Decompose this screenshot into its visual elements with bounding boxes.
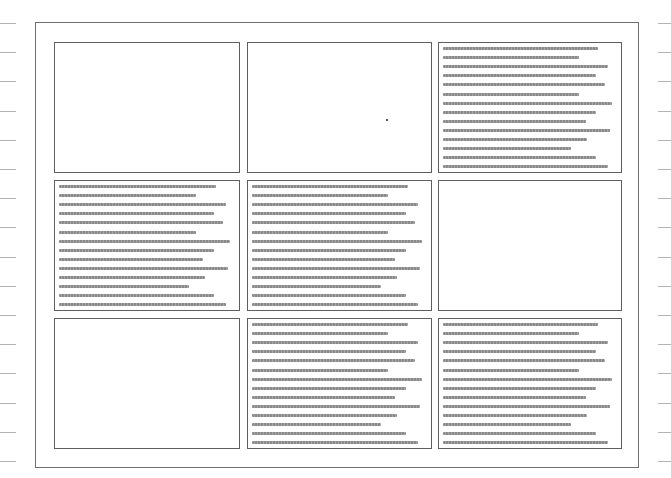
text-line — [252, 350, 406, 353]
margin-tick-right — [658, 140, 671, 141]
margin-tick-right — [658, 81, 671, 82]
text-line — [443, 387, 596, 390]
text-line — [252, 258, 395, 261]
text-line — [443, 47, 598, 50]
text-line — [443, 165, 608, 168]
margin-tick-right — [658, 111, 671, 112]
margin-tick-left — [0, 344, 16, 345]
text-line — [59, 276, 205, 279]
text-line — [59, 194, 196, 197]
text-line — [252, 405, 420, 408]
panel-1-blank — [54, 42, 240, 173]
text-line — [59, 212, 214, 215]
text-line — [252, 369, 388, 372]
text-line — [59, 267, 228, 270]
text-line — [443, 147, 571, 150]
margin-tick-left — [0, 140, 16, 141]
margin-tick-right — [658, 227, 671, 228]
text-line — [252, 441, 418, 444]
panel-6-blank — [438, 180, 622, 311]
margin-tick-right — [658, 344, 671, 345]
text-line — [443, 56, 579, 59]
text-line — [443, 65, 608, 68]
text-line — [252, 332, 388, 335]
text-line — [252, 359, 415, 362]
margin-tick-left — [0, 169, 16, 170]
text-line — [252, 387, 406, 390]
margin-tick-left — [0, 432, 16, 433]
text-line — [443, 129, 610, 132]
text-line — [443, 432, 596, 435]
panel-2-blank — [247, 42, 432, 173]
text-line — [443, 423, 571, 426]
speck-mark — [386, 119, 388, 121]
text-line — [443, 93, 579, 96]
text-line — [59, 221, 223, 224]
text-line — [443, 74, 596, 77]
text-line — [443, 350, 596, 353]
margin-tick-right — [658, 23, 671, 24]
panel-5-text — [247, 180, 432, 311]
margin-tick-left — [0, 81, 16, 82]
margin-tick-right — [658, 52, 671, 53]
text-line — [443, 156, 596, 159]
text-line — [443, 378, 612, 381]
text-line — [252, 194, 388, 197]
text-line — [252, 396, 395, 399]
text-line — [252, 341, 418, 344]
margin-tick-left — [0, 315, 16, 316]
margin-tick-left — [0, 373, 16, 374]
text-line — [252, 323, 408, 326]
margin-tick-right — [658, 461, 671, 462]
text-line — [443, 341, 608, 344]
text-line — [59, 240, 230, 243]
text-line — [252, 221, 415, 224]
text-line — [443, 405, 610, 408]
text-line — [252, 303, 418, 306]
text-line — [252, 249, 406, 252]
text-line — [252, 294, 406, 297]
text-line — [252, 212, 406, 215]
text-line — [443, 414, 587, 417]
margin-tick-left — [0, 111, 16, 112]
text-line — [443, 102, 612, 105]
panel-4-text — [54, 180, 240, 311]
text-line — [443, 369, 579, 372]
margin-tick-left — [0, 403, 16, 404]
text-line — [443, 441, 608, 444]
text-line — [443, 83, 605, 86]
margin-tick-right — [658, 403, 671, 404]
text-line — [443, 120, 586, 123]
margin-tick-left — [0, 23, 16, 24]
panel-3-text — [438, 42, 622, 173]
margin-tick-left — [0, 227, 16, 228]
text-line — [59, 203, 226, 206]
text-line — [443, 111, 596, 114]
text-line — [59, 294, 214, 297]
text-line — [443, 396, 586, 399]
text-line — [443, 323, 598, 326]
text-line — [59, 185, 216, 188]
text-line — [252, 432, 406, 435]
text-line — [252, 267, 420, 270]
margin-tick-right — [658, 315, 671, 316]
margin-tick-left — [0, 52, 16, 53]
margin-tick-left — [0, 198, 16, 199]
margin-tick-left — [0, 257, 16, 258]
panel-8-text — [247, 318, 432, 449]
margin-tick-right — [658, 432, 671, 433]
text-line — [59, 303, 226, 306]
text-line — [252, 276, 397, 279]
text-line — [59, 285, 189, 288]
panel-7-blank — [54, 318, 240, 449]
text-line — [252, 414, 397, 417]
margin-tick-right — [658, 286, 671, 287]
margin-tick-right — [658, 257, 671, 258]
text-line — [443, 332, 579, 335]
text-line — [252, 378, 422, 381]
margin-tick-right — [658, 373, 671, 374]
text-line — [59, 249, 214, 252]
panel-9-text — [438, 318, 622, 449]
text-line — [59, 231, 196, 234]
margin-tick-right — [658, 198, 671, 199]
